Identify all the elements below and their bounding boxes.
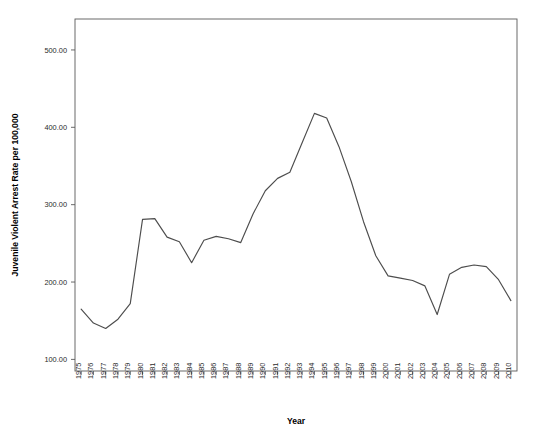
x-tick-label: 1989: [246, 363, 255, 379]
x-tick-label: 2008: [479, 363, 488, 379]
x-tick-label: 1979: [123, 363, 132, 379]
x-tick-label: 1976: [86, 363, 95, 379]
y-tick-label: 400.00: [44, 123, 67, 132]
x-tick-label: 1978: [111, 363, 120, 379]
x-tick-label: 1992: [283, 363, 292, 379]
x-tick-label: 1985: [197, 363, 206, 379]
x-tick-label: 2006: [455, 363, 464, 379]
x-tick-label: 1987: [221, 363, 230, 379]
x-tick-label: 1991: [271, 363, 280, 379]
x-tick-label: 1993: [295, 363, 304, 379]
chart-container: 100.00200.00300.00400.00500.00 197519761…: [0, 0, 535, 433]
x-tick-label: 2004: [430, 363, 439, 379]
x-tick-label: 1995: [320, 363, 329, 379]
x-tick-label: 1980: [136, 363, 145, 379]
x-tick-label: 1997: [344, 363, 353, 379]
x-tick-label: 1999: [369, 363, 378, 379]
x-tick-label: 1990: [258, 363, 267, 379]
x-tick-label: 1994: [307, 363, 316, 379]
x-tick-label: 1988: [234, 363, 243, 379]
x-axis-title: Year: [287, 416, 306, 426]
y-tick-label: 500.00: [44, 46, 67, 55]
x-tick-label: 1996: [332, 363, 341, 379]
y-tick-label: 200.00: [44, 278, 67, 287]
x-tick-label: 2005: [442, 363, 451, 379]
x-tick-label: 2001: [393, 363, 402, 379]
x-tick-label: 1975: [74, 363, 83, 379]
x-tick-label: 1986: [209, 363, 218, 379]
y-tick-label: 100.00: [44, 355, 67, 364]
x-tick-label: 1983: [172, 363, 181, 379]
x-tick-label: 1981: [148, 363, 157, 379]
x-tick-label: 2000: [381, 363, 390, 379]
x-tick-label: 2002: [406, 363, 415, 379]
y-tick-label: 300.00: [44, 200, 67, 209]
x-tick-label: 2009: [492, 363, 501, 379]
x-tick-label: 1977: [99, 363, 108, 379]
line-chart-figure: 100.00200.00300.00400.00500.00 197519761…: [0, 0, 535, 433]
x-tick-label: 1982: [160, 363, 169, 379]
y-axis-title: Juvenile Violent Arrest Rate per 100,000: [10, 113, 20, 276]
x-tick-label: 2010: [504, 363, 513, 379]
x-tick-label: 1998: [357, 363, 366, 379]
x-tick-label: 1984: [185, 363, 194, 379]
x-tick-label: 2003: [418, 363, 427, 379]
x-tick-label: 2007: [467, 363, 476, 379]
